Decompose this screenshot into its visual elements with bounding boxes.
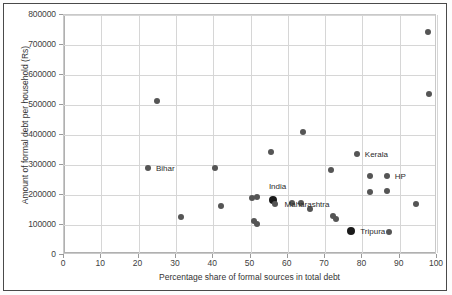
x-axis-tick-label: 50 [245,258,254,268]
data-point [425,29,431,35]
data-point [268,149,274,155]
scatter-chart-figure: BiharIndiaMaharashtraTripuraKeralaHP Per… [0,0,452,295]
y-axis-tick-mark [59,164,63,165]
x-axis-tick-label: 90 [394,258,403,268]
plot-area: BiharIndiaMaharashtraTripuraKeralaHP [63,14,436,254]
x-axis-tick-mark [100,254,101,258]
gridline-horizontal [64,165,435,166]
y-axis-tick-mark [59,14,63,15]
y-axis-tick-label: 400000 [28,129,56,139]
gridline-vertical [288,15,289,253]
x-axis-tick-mark [250,254,251,258]
x-axis-tick-mark [287,254,288,258]
x-axis-line [64,252,435,253]
x-axis-tick-label: 60 [282,258,291,268]
gridline-vertical [362,15,363,253]
y-axis-tick-mark [59,134,63,135]
gridline-horizontal [64,135,435,136]
data-point [354,151,360,157]
y-axis-tick-label: 600000 [28,69,56,79]
x-axis-tick-label: 80 [357,258,366,268]
x-axis-tick-mark [361,254,362,258]
y-axis-tick-label: 300000 [28,159,56,169]
y-axis-tick-mark [59,104,63,105]
x-axis-tick-mark [212,254,213,258]
data-point [272,201,278,207]
data-point [347,227,355,235]
data-point [413,201,419,207]
data-point-label: Kerala [365,149,388,158]
data-point [154,98,160,104]
x-axis-tick-mark [138,254,139,258]
data-point [426,91,432,97]
data-point [145,165,151,171]
data-point-label: India [269,182,286,191]
y-axis-tick-label: 100000 [28,219,56,229]
y-axis-tick-mark [59,74,63,75]
data-point [386,229,392,235]
gridline-vertical [400,15,401,253]
gridline-horizontal [64,15,435,16]
data-point [328,167,334,173]
gridline-vertical [251,15,252,253]
x-axis-tick-label: 40 [207,258,216,268]
data-point [384,188,390,194]
gridline-vertical [437,15,438,253]
y-axis-tick-label: 200000 [28,189,56,199]
x-axis-title: Percentage share of formal sources in to… [63,272,436,282]
gridline-horizontal [64,45,435,46]
gridline-vertical [101,15,102,253]
y-axis-tick-label: 700000 [28,39,56,49]
y-axis-tick-mark [59,224,63,225]
gridline-vertical [139,15,140,253]
x-axis-tick-mark [63,254,64,258]
x-axis-tick-mark [175,254,176,258]
y-axis-tick-mark [59,44,63,45]
data-point [300,129,306,135]
x-axis-tick-label: 0 [61,258,66,268]
data-point [212,165,218,171]
x-axis-tick-mark [399,254,400,258]
gridline-vertical [325,15,326,253]
gridline-horizontal [64,105,435,106]
data-point-label: Maharashtra [285,200,330,209]
x-axis-tick-mark [324,254,325,258]
data-point-label: HP [395,172,406,181]
x-axis-tick-label: 20 [133,258,142,268]
y-axis-tick-label: 500000 [28,99,56,109]
x-axis-tick-label: 30 [170,258,179,268]
gridline-vertical [213,15,214,253]
data-point [254,221,260,227]
data-point [384,173,390,179]
x-axis-tick-label: 70 [319,258,328,268]
gridline-horizontal [64,75,435,76]
x-axis-tick-label: 10 [96,258,105,268]
data-point [218,203,224,209]
y-axis-tick-label: 800000 [28,9,56,19]
data-point [333,216,339,222]
data-point [178,214,184,220]
x-axis-tick-mark [436,254,437,258]
data-point [367,189,373,195]
y-axis-tick-label: 0 [51,249,56,259]
x-axis-tick-label: 100 [429,258,443,268]
y-axis-line [64,15,65,253]
gridline-vertical [176,15,177,253]
data-point-label: Tripura [360,227,385,236]
data-point [367,173,373,179]
data-point [254,194,260,200]
y-axis-tick-mark [59,194,63,195]
data-point-label: Bihar [156,164,175,173]
